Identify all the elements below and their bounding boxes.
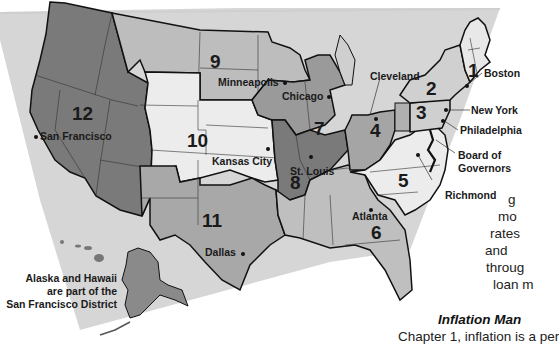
body-text-fragment-4: and (485, 243, 508, 258)
city-dot-boston (465, 84, 469, 88)
board-label-line1: Board of (458, 149, 511, 162)
city-dot-minneapolis (283, 81, 287, 85)
city-label-st-louis: St. Louis (290, 165, 334, 177)
district-number-12: 12 (72, 103, 93, 125)
district-number-6: 6 (371, 222, 382, 244)
city-label-cleveland: Cleveland (370, 70, 420, 82)
city-label-boston: Boston (484, 67, 520, 79)
body-text-fragment-5: throug (486, 260, 524, 275)
body-text-fragment-3: rates (490, 226, 520, 241)
district-number-10: 10 (187, 130, 208, 152)
board-of-governors-label: Board of Governors (458, 149, 511, 175)
city-dot-new-york (444, 108, 448, 112)
city-label-philadelphia: Philadelphia (460, 124, 522, 136)
district-number-1: 1 (468, 60, 479, 82)
district-number-9: 9 (210, 51, 221, 73)
city-label-minneapolis: Minneapolis (218, 76, 279, 88)
district-number-11: 11 (202, 210, 222, 232)
city-label-richmond: Richmond (445, 189, 496, 201)
city-label-dallas: Dallas (205, 246, 236, 258)
note-line2: are part of the (2, 285, 117, 298)
section-heading: Inflation Man (438, 312, 521, 327)
city-label-chicago: Chicago (282, 90, 323, 102)
district-number-7: 7 (314, 118, 325, 140)
city-label-new-york: New York (471, 104, 518, 116)
district-number-4: 4 (370, 120, 381, 142)
body-text-fragment-2: mo (498, 209, 517, 224)
city-dot-philadelphia (441, 119, 445, 123)
city-dot-cleveland (374, 117, 378, 121)
body-text-last-line: Chapter 1, inflation is a per (398, 329, 559, 344)
city-dot-chicago (327, 95, 331, 99)
city-dot-richmond (416, 153, 420, 157)
district-number-5: 5 (398, 170, 409, 192)
body-text-fragment-6: loan m (493, 277, 534, 292)
city-label-san-francisco: San Francisco (40, 130, 112, 142)
alaska-hawaii-note: Alaska and Hawaii are part of the San Fr… (2, 272, 117, 311)
board-label-line2: Governors (458, 162, 511, 175)
city-dot-atlanta (369, 208, 373, 212)
city-dot-san-francisco (34, 135, 38, 139)
city-dot-kansas-city (266, 147, 270, 151)
body-text-fragment-1: g (508, 192, 516, 207)
district-number-2: 2 (426, 78, 437, 100)
note-line3: San Francisco District (2, 298, 117, 311)
city-dot-st-louis (309, 155, 313, 159)
district-number-3: 3 (416, 102, 427, 124)
city-dot-dallas (241, 252, 245, 256)
note-line1: Alaska and Hawaii (2, 272, 117, 285)
city-label-kansas-city: Kansas City (212, 155, 272, 167)
